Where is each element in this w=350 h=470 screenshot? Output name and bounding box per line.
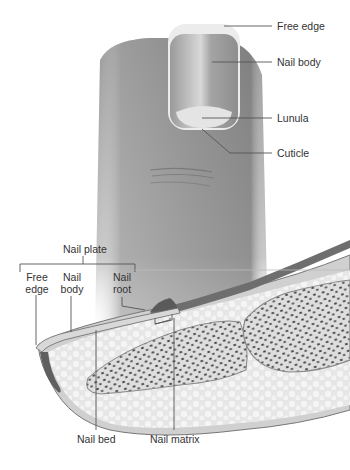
label-nail-root-line2: root bbox=[107, 283, 137, 295]
label-nail-matrix: Nail matrix bbox=[150, 433, 200, 445]
label-nail-body-section: Nail body bbox=[57, 271, 87, 295]
label-nail-body: Nail body bbox=[277, 56, 321, 68]
label-nail-bed: Nail bed bbox=[77, 433, 116, 445]
label-free-edge-line2: edge bbox=[22, 283, 52, 295]
label-free-edge-line1: Free bbox=[22, 271, 52, 283]
diagram-artwork bbox=[0, 0, 350, 470]
label-nail-root-section: Nail root bbox=[107, 271, 137, 295]
label-nail-plate: Nail plate bbox=[63, 243, 107, 255]
label-nail-root-line1: Nail bbox=[107, 271, 137, 283]
fingernail-diagram: Free edge Nail body Lunula Cuticle Nail … bbox=[0, 0, 350, 470]
label-cuticle: Cuticle bbox=[277, 147, 309, 159]
label-lunula: Lunula bbox=[277, 112, 309, 124]
label-nail-body-line1: Nail bbox=[57, 271, 87, 283]
label-free-edge: Free edge bbox=[277, 20, 325, 32]
nail-top-view bbox=[168, 24, 240, 130]
label-free-edge-section: Free edge bbox=[22, 271, 52, 295]
label-nail-body-line2: body bbox=[57, 283, 87, 295]
